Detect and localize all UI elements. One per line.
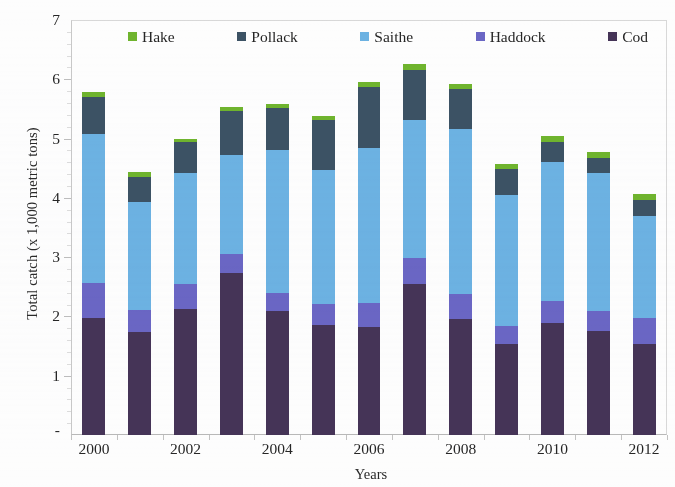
bar-2006[interactable] — [358, 82, 381, 435]
bar-segment-haddock[interactable] — [541, 301, 564, 323]
bar-segment-haddock[interactable] — [82, 283, 105, 317]
bar-segment-haddock[interactable] — [220, 254, 243, 273]
y-tick-mark — [64, 139, 71, 140]
legend-item-cod[interactable]: Cod — [608, 29, 648, 45]
legend-swatch-hake-icon — [128, 32, 137, 41]
legend-swatch-saithe-icon — [360, 32, 369, 41]
bar-segment-pollack[interactable] — [633, 200, 656, 215]
x-tick-label: 2004 — [242, 440, 312, 458]
legend-label: Hake — [142, 29, 175, 45]
bar-segment-cod[interactable] — [82, 318, 105, 435]
legend-label: Cod — [622, 29, 648, 45]
x-tick-label: 2006 — [334, 440, 404, 458]
bar-segment-cod[interactable] — [633, 344, 656, 435]
bar-2007[interactable] — [403, 64, 426, 435]
y-axis-title: Total catch (x 1,000 metric tons) — [24, 34, 41, 414]
x-axis-title: Years — [71, 466, 671, 483]
bar-2012[interactable] — [633, 194, 656, 435]
bar-segment-haddock[interactable] — [312, 304, 335, 325]
bar-segment-haddock[interactable] — [266, 293, 289, 311]
bar-2000[interactable] — [82, 92, 105, 435]
bar-segment-haddock[interactable] — [403, 258, 426, 283]
bar-segment-saithe[interactable] — [449, 129, 472, 294]
bar-segment-haddock[interactable] — [495, 326, 518, 344]
bar-segment-haddock[interactable] — [449, 294, 472, 319]
bar-segment-pollack[interactable] — [495, 169, 518, 194]
bar-segment-pollack[interactable] — [403, 70, 426, 120]
bar-segment-saithe[interactable] — [220, 155, 243, 254]
bar-segment-haddock[interactable] — [587, 311, 610, 331]
bar-segment-cod[interactable] — [403, 284, 426, 435]
bar-segment-pollack[interactable] — [266, 108, 289, 150]
bar-segment-cod[interactable] — [128, 332, 151, 435]
bar-segment-cod[interactable] — [358, 327, 381, 435]
bar-segment-saithe[interactable] — [495, 195, 518, 326]
x-tick-label: 2008 — [426, 440, 496, 458]
x-tick-label: 2000 — [59, 440, 129, 458]
legend-item-haddock[interactable]: Haddock — [476, 29, 546, 45]
bar-segment-pollack[interactable] — [128, 177, 151, 202]
chart-legend: HakePollackSaitheHaddockCod — [128, 29, 648, 45]
legend-swatch-haddock-icon — [476, 32, 485, 41]
bar-segment-haddock[interactable] — [358, 303, 381, 327]
bar-segment-cod[interactable] — [220, 273, 243, 435]
y-tick-label: 7 — [22, 12, 60, 28]
bar-segment-saithe[interactable] — [312, 170, 335, 304]
y-tick-mark — [64, 79, 71, 80]
y-tick-mark — [64, 198, 71, 199]
legend-item-saithe[interactable]: Saithe — [360, 29, 413, 45]
bar-segment-pollack[interactable] — [220, 111, 243, 155]
bar-2001[interactable] — [128, 172, 151, 435]
bar-segment-cod[interactable] — [587, 331, 610, 435]
bar-segment-saithe[interactable] — [358, 148, 381, 304]
x-tick-label: 2010 — [517, 440, 587, 458]
legend-item-hake[interactable]: Hake — [128, 29, 175, 45]
bar-2011[interactable] — [587, 152, 610, 435]
legend-label: Pollack — [251, 29, 298, 45]
y-tick-mark — [64, 376, 71, 377]
y-tick-mark — [64, 316, 71, 317]
bar-segment-cod[interactable] — [266, 311, 289, 435]
bar-segment-pollack[interactable] — [541, 142, 564, 162]
bar-segment-saithe[interactable] — [82, 134, 105, 283]
bar-segment-haddock[interactable] — [174, 284, 197, 309]
bar-2008[interactable] — [449, 84, 472, 435]
bar-segment-haddock[interactable] — [128, 310, 151, 333]
bar-segment-saithe[interactable] — [266, 150, 289, 293]
bar-segment-haddock[interactable] — [633, 318, 656, 344]
stacked-bar-chart: Total catch (x 1,000 metric tons) 765432… — [0, 0, 675, 487]
bars-layer — [71, 20, 667, 435]
x-tick-label: 2002 — [151, 440, 221, 458]
bar-segment-cod[interactable] — [312, 325, 335, 435]
bar-2005[interactable] — [312, 116, 335, 435]
bar-segment-cod[interactable] — [495, 344, 518, 435]
legend-item-pollack[interactable]: Pollack — [237, 29, 298, 45]
bar-2010[interactable] — [541, 136, 564, 435]
bar-segment-pollack[interactable] — [174, 142, 197, 173]
bar-segment-saithe[interactable] — [541, 162, 564, 301]
bar-segment-pollack[interactable] — [449, 89, 472, 129]
x-tick-label: 2012 — [609, 440, 675, 458]
bar-segment-saithe[interactable] — [633, 216, 656, 319]
legend-label: Saithe — [374, 29, 413, 45]
bar-segment-saithe[interactable] — [587, 173, 610, 311]
bar-segment-saithe[interactable] — [128, 202, 151, 310]
bar-segment-cod[interactable] — [449, 319, 472, 435]
bar-segment-cod[interactable] — [541, 323, 564, 435]
bar-segment-saithe[interactable] — [174, 173, 197, 284]
legend-swatch-cod-icon — [608, 32, 617, 41]
bar-segment-pollack[interactable] — [82, 97, 105, 134]
bar-2004[interactable] — [266, 104, 289, 435]
y-tick-label: - — [22, 422, 60, 438]
bar-segment-pollack[interactable] — [587, 158, 610, 173]
legend-swatch-pollack-icon — [237, 32, 246, 41]
bar-2009[interactable] — [495, 164, 518, 436]
bar-segment-cod[interactable] — [174, 309, 197, 435]
legend-label: Haddock — [490, 29, 546, 45]
bar-2003[interactable] — [220, 107, 243, 435]
bar-2002[interactable] — [174, 139, 197, 435]
y-tick-mark — [64, 257, 71, 258]
bar-segment-saithe[interactable] — [403, 120, 426, 258]
bar-segment-pollack[interactable] — [358, 87, 381, 147]
bar-segment-pollack[interactable] — [312, 120, 335, 170]
